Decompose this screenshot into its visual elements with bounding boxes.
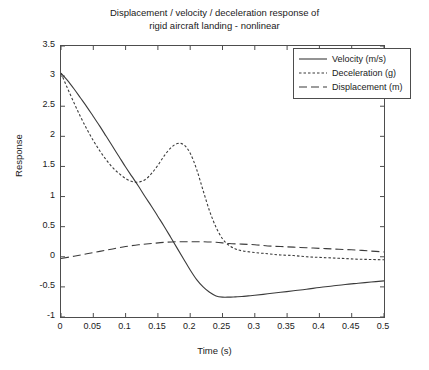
legend-item-1: Deceleration (g)	[298, 66, 406, 80]
x-tick-label: 0.3	[236, 321, 272, 331]
legend-swatch-dashed	[298, 82, 328, 92]
x-tick-label: 0.35	[268, 321, 304, 331]
y-tick-label: 3.5	[21, 39, 55, 49]
x-tick-label: 0.5	[365, 321, 401, 331]
series-line-1	[61, 73, 384, 260]
x-tick-label: 0.4	[300, 321, 336, 331]
y-tick-label: -0.5	[21, 280, 55, 290]
x-tick-label: 0	[42, 321, 78, 331]
legend-label: Displacement (m)	[332, 82, 403, 92]
x-tick-label: 0.45	[333, 321, 369, 331]
y-axis-label: Response	[13, 116, 24, 196]
x-tick-label: 0.2	[171, 321, 207, 331]
legend-label: Deceleration (g)	[332, 68, 396, 78]
x-tick-label: 0.15	[139, 321, 175, 331]
y-tick-label: 1	[21, 190, 55, 200]
legend-item-2: Displacement (m)	[298, 80, 406, 94]
legend-swatch-dotted	[298, 68, 328, 78]
y-tick-label: -1	[21, 310, 55, 320]
x-tick-label: 0.25	[204, 321, 240, 331]
series-line-2	[61, 242, 384, 259]
y-tick-label: 2	[21, 129, 55, 139]
series-line-0	[61, 73, 384, 297]
y-tick-label: 3	[21, 69, 55, 79]
legend-item-0: Velocity (m/s)	[298, 52, 406, 66]
legend-label: Velocity (m/s)	[332, 54, 386, 64]
chart-legend: Velocity (m/s)Deceleration (g)Displaceme…	[293, 48, 411, 99]
x-axis-label: Time (s)	[0, 345, 429, 356]
figure: Displacement / velocity / deceleration r…	[0, 0, 429, 370]
chart-title-line2: rigid aircraft landing - nonlinear	[0, 19, 429, 32]
y-tick-label: 1.5	[21, 159, 55, 169]
chart-title-line1: Displacement / velocity / deceleration r…	[0, 6, 429, 19]
y-tick-label: 0	[21, 250, 55, 260]
y-tick-label: 0.5	[21, 220, 55, 230]
y-tick-label: 2.5	[21, 99, 55, 109]
legend-swatch-solid	[298, 54, 328, 64]
x-tick-label: 0.1	[107, 321, 143, 331]
x-tick-label: 0.05	[74, 321, 110, 331]
chart-title: Displacement / velocity / deceleration r…	[0, 6, 429, 32]
